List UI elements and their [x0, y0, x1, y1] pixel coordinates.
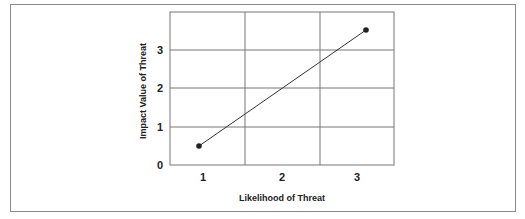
x-tick-2: 2	[279, 171, 285, 183]
y-tick-1: 1	[157, 121, 163, 133]
data-point-1	[196, 143, 202, 149]
x-tick-1: 1	[200, 171, 206, 183]
y-tick-2: 2	[157, 82, 163, 94]
data-point-2	[363, 27, 369, 33]
y-axis-label: Impact Value of Threat	[138, 43, 148, 139]
y-tick-3: 3	[157, 44, 163, 56]
x-tick-3: 3	[354, 171, 360, 183]
chart: 0 1 2 3 1 2 3 Likelihood of Threat Impac…	[0, 0, 525, 219]
y-tick-0: 0	[157, 159, 163, 171]
x-axis-label: Likelihood of Threat	[239, 193, 325, 203]
